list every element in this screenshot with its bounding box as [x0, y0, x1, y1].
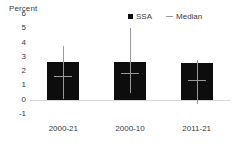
y-axis-tick-label: 1 — [0, 81, 26, 89]
error-bar-whisker — [63, 46, 64, 99]
y-axis-tick-label: 0 — [0, 96, 26, 104]
x-axis-tick-label: 2000-10 — [100, 124, 160, 133]
y-axis-tick-label: 3 — [0, 53, 26, 61]
y-axis-tick-label: 4 — [0, 39, 26, 47]
legend-item-label: SSA — [136, 12, 152, 21]
legend-item[interactable]: Median — [166, 12, 202, 21]
zero-baseline — [30, 100, 230, 101]
error-bar-whisker — [197, 60, 198, 104]
error-bar-whisker — [130, 28, 131, 94]
y-axis-tick-label: 2 — [0, 67, 26, 75]
chart-container: Percent 6543210-1 2000-212000-102011-21 … — [0, 0, 234, 145]
legend-item-label: Median — [176, 12, 202, 21]
plot-area — [30, 14, 230, 114]
y-axis-tick-label: -1 — [0, 110, 26, 118]
x-axis-tick-label: 2000-21 — [33, 124, 93, 133]
median-marker — [121, 73, 139, 74]
x-axis-tick-label: 2011-21 — [167, 124, 227, 133]
median-marker — [54, 76, 72, 77]
legend-dash-icon — [166, 16, 173, 17]
median-marker — [188, 80, 206, 81]
legend-item[interactable]: SSA — [128, 12, 152, 21]
y-axis-tick-label: 6 — [0, 10, 26, 18]
legend-square-icon — [128, 14, 133, 19]
chart-legend: SSAMedian — [128, 10, 202, 22]
y-axis-tick-label: 5 — [0, 24, 26, 32]
